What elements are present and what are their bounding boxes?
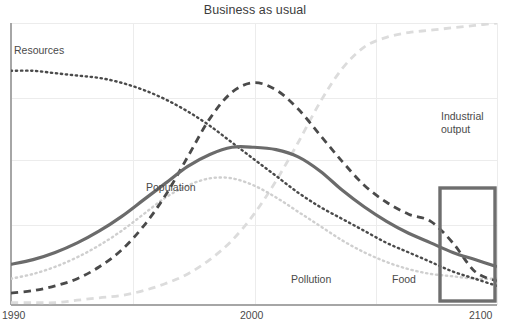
plot-frame [11, 23, 497, 305]
series-line-food [11, 177, 497, 278]
series-line-population [11, 147, 497, 267]
highlight-box[interactable] [440, 188, 495, 301]
series-label-food: Food [392, 273, 416, 286]
series-line-industrial-output [11, 83, 497, 293]
xtick-label-1990: 1990 [2, 309, 25, 321]
xtick-label-2000: 2000 [240, 309, 263, 321]
series-label-pollution: Pollution [291, 273, 331, 286]
series-group [11, 23, 497, 303]
plot-canvas [0, 0, 510, 333]
chart-container: Business as usual 1990 [0, 0, 510, 333]
gridlines [11, 23, 497, 305]
series-line-pollution [11, 23, 497, 303]
series-label-population: Population [146, 181, 196, 194]
xtick-label-2100: 2100 [469, 309, 492, 321]
series-line-resources [11, 71, 497, 286]
series-label-resources: Resources [14, 44, 64, 57]
series-label-industrial-output: Industrial output [441, 110, 503, 135]
